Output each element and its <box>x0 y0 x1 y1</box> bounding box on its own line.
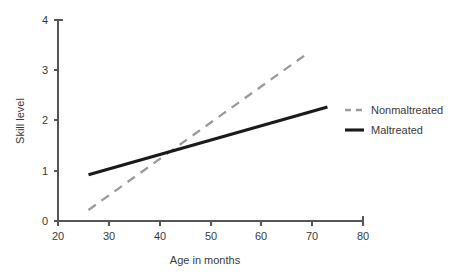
x-tick-label-70: 70 <box>306 230 318 242</box>
y-tick-label-2: 2 <box>42 114 48 126</box>
series-line-maltreated <box>89 107 328 175</box>
y-axis-title: Skill level <box>14 98 26 144</box>
x-tick-labels: 20 30 40 50 60 70 80 <box>52 230 369 242</box>
chart-figure: 0 1 2 3 4 20 30 40 50 60 70 80 Age in <box>0 0 467 278</box>
x-tick-label-40: 40 <box>154 230 166 242</box>
series-line-nonmaltreated <box>89 54 308 210</box>
x-tick-label-60: 60 <box>255 230 267 242</box>
y-tick-label-3: 3 <box>42 64 48 76</box>
legend-label-maltreated: Maltreated <box>371 124 423 136</box>
chart-legend: Nonmaltreated Maltreated <box>345 104 443 136</box>
x-tick-label-50: 50 <box>205 230 217 242</box>
x-tick-label-20: 20 <box>52 230 64 242</box>
x-axis-title: Age in months <box>170 254 241 266</box>
axis-group <box>58 20 363 221</box>
line-chart: 0 1 2 3 4 20 30 40 50 60 70 80 Age in <box>0 0 467 278</box>
legend-label-nonmaltreated: Nonmaltreated <box>371 104 443 116</box>
y-tick-label-1: 1 <box>42 165 48 177</box>
x-tick-label-80: 80 <box>357 230 369 242</box>
y-tick-labels: 0 1 2 3 4 <box>42 14 48 227</box>
x-tick-label-30: 30 <box>103 230 115 242</box>
y-tick-label-0: 0 <box>42 215 48 227</box>
y-tick-label-4: 4 <box>42 14 48 26</box>
series-group <box>89 54 328 210</box>
